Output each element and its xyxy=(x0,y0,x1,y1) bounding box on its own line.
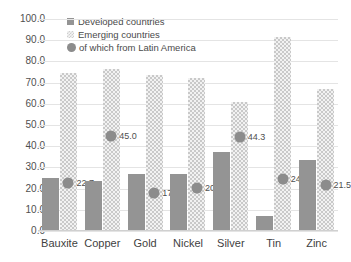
bar-group: 44.3 xyxy=(209,19,252,231)
bar-group: 17.8 xyxy=(124,19,167,231)
bar-emerging xyxy=(60,73,77,231)
bar-developed xyxy=(128,174,145,231)
bar-developed xyxy=(299,160,316,231)
marker-latin-america xyxy=(277,173,288,184)
x-axis-category-label: Silver xyxy=(209,237,252,249)
marker-latin-america xyxy=(106,130,117,141)
x-axis-category-label: Gold xyxy=(124,237,167,249)
marker-latin-america xyxy=(149,188,160,199)
bar-emerging xyxy=(274,37,291,231)
bar-developed xyxy=(42,178,59,231)
bar-developed xyxy=(256,216,273,231)
bar-emerging xyxy=(317,89,334,231)
bar-group: 45.0 xyxy=(81,19,124,231)
marker-latin-america xyxy=(234,132,245,143)
plot-area: 22.745.017.820.544.324.621.5 xyxy=(38,19,338,231)
bar-group: 20.5 xyxy=(167,19,210,231)
x-axis-category-label: Copper xyxy=(81,237,124,249)
bar-emerging xyxy=(146,75,163,231)
bar-emerging xyxy=(231,102,248,231)
x-axis-category-label: Zinc xyxy=(295,237,338,249)
bar-developed xyxy=(170,174,187,231)
gridline xyxy=(38,231,338,232)
bar-developed xyxy=(85,181,102,231)
marker-latin-america xyxy=(320,180,331,191)
bar-emerging xyxy=(103,69,120,231)
x-axis-baseline xyxy=(38,230,338,231)
bar-emerging xyxy=(188,78,205,231)
x-axis-category-label: Nickel xyxy=(167,237,210,249)
x-axis-category-label: Bauxite xyxy=(38,237,81,249)
marker-data-label: 21.5 xyxy=(334,181,351,190)
marker-latin-america xyxy=(63,177,74,188)
marker-latin-america xyxy=(191,182,202,193)
bar-group: 21.5 xyxy=(295,19,338,231)
bar-group: 24.6 xyxy=(252,19,295,231)
bar-developed xyxy=(213,152,230,231)
bar-group: 22.7 xyxy=(38,19,81,231)
x-axis-category-label: Tin xyxy=(252,237,295,249)
